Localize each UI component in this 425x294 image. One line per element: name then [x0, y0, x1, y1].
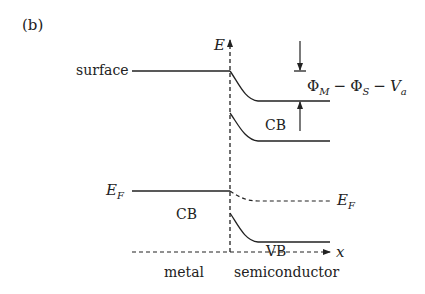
metal-cb-label: CB — [176, 206, 197, 222]
barrier-label: ΦM−ΦS−Va — [307, 77, 407, 97]
panel-label: (b) — [22, 16, 43, 34]
semiconductor-region-label: semiconductor — [234, 264, 339, 280]
metal-fermi-label: EF — [105, 181, 125, 201]
semiconductor-vb-edge — [230, 213, 330, 242]
semiconductor-fermi-label: EF — [336, 191, 356, 211]
semiconductor-vb-label: VB — [265, 243, 286, 259]
semiconductor-cb-label: CB — [265, 117, 286, 133]
semiconductor-fermi-level — [230, 191, 330, 201]
metal-region-label: metal — [164, 264, 205, 280]
band-diagram: (b) E x surface CB EF CB EF VB metal sem… — [0, 0, 425, 294]
surface-label: surface — [76, 62, 129, 78]
energy-axis-label: E — [213, 36, 225, 54]
position-axis-label: x — [336, 243, 345, 261]
